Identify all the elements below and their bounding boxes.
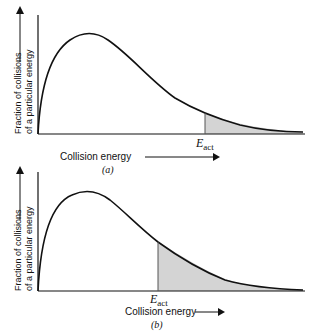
panel-a-distribution-curve <box>38 34 303 134</box>
panel-a-plot <box>16 6 305 161</box>
panel-b-y-label-line2: of a particular energy <box>24 219 35 291</box>
panel-a-y-label-line1: Fraction of collisions <box>13 62 24 134</box>
panel-b-x-arrow-icon <box>195 308 225 316</box>
figure-canvas <box>0 0 312 333</box>
panel-a-x-arrow-icon <box>145 153 220 161</box>
panel-b-y-axis-label: Fraction of collisions of a particular e… <box>13 219 35 291</box>
panel-a-label: (a) <box>102 164 114 175</box>
panel-a-x-axis-label: Collision energy <box>60 151 131 162</box>
panel-b-y-label-line1: Fraction of collisions <box>13 219 24 291</box>
panel-a-y-axis-label: Fraction of collisions of a particular e… <box>13 62 35 134</box>
panel-a-shaded-area <box>205 113 303 134</box>
panel-b-shaded-area <box>158 242 303 291</box>
panel-b-x-axis-label: Collision energy <box>125 306 196 317</box>
panel-a-y-label-line2: of a particular energy <box>24 62 35 134</box>
panel-a-eact-label: Eact <box>196 136 214 152</box>
panel-b-label: (b) <box>151 319 163 330</box>
